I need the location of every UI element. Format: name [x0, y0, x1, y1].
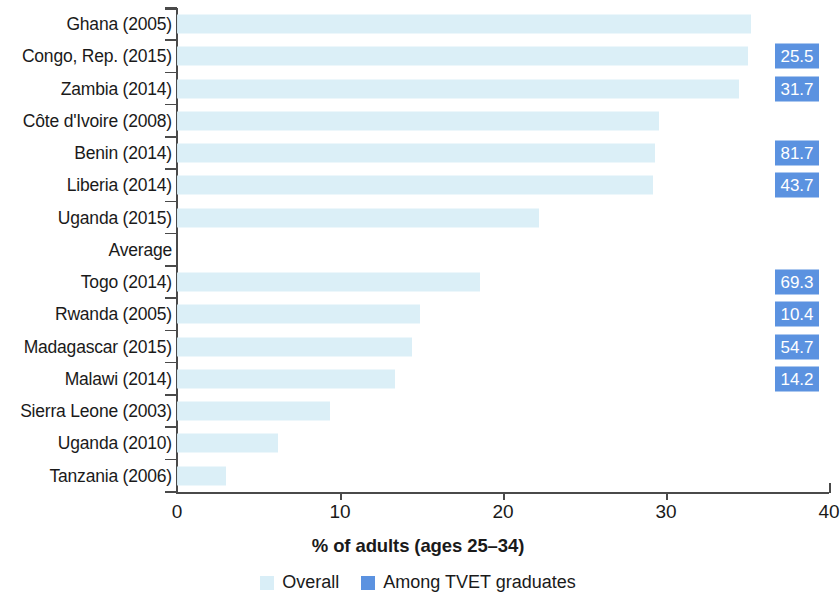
category-label: Ghana (2005)	[66, 14, 172, 35]
chart-row: Zambia (2014)31.7	[0, 73, 836, 105]
bar-overall	[177, 273, 480, 292]
bar-overall	[177, 466, 226, 485]
y-axis-tick	[165, 362, 177, 364]
chart-row: Togo (2014)69.3	[0, 266, 836, 298]
tvet-value-badge: 69.3	[775, 270, 819, 295]
tvet-value-badge: 31.7	[775, 76, 819, 101]
category-label: Congo, Rep. (2015)	[22, 46, 172, 67]
bar-overall	[177, 337, 412, 356]
category-label: Average	[109, 239, 172, 260]
category-label: Togo (2014)	[81, 272, 172, 293]
y-axis-tick	[165, 297, 177, 299]
y-axis-tick	[165, 265, 177, 267]
x-axis-tick-label: 20	[492, 501, 513, 523]
y-axis-tick	[165, 136, 177, 138]
y-axis-tick	[165, 233, 177, 235]
y-axis-tick	[165, 168, 177, 170]
category-label: Rwanda (2005)	[55, 304, 172, 325]
bar-overall	[177, 144, 655, 163]
x-axis-tick-label: 0	[172, 501, 183, 523]
tvet-value-badge: 43.7	[775, 173, 819, 198]
chart-rows: Ghana (2005)Congo, Rep. (2015)25.5Zambia…	[0, 8, 836, 492]
chart-legend: Overall Among TVET graduates	[0, 572, 836, 593]
chart-row: Uganda (2015)	[0, 202, 836, 234]
chart-row: Congo, Rep. (2015)25.5	[0, 40, 836, 72]
chart-row: Sierra Leone (2003)	[0, 395, 836, 427]
category-label: Tanzania (2006)	[50, 465, 173, 486]
y-axis-tick	[165, 39, 177, 41]
y-axis-tick	[165, 426, 177, 428]
chart-row: Liberia (2014)43.7	[0, 169, 836, 201]
tvet-value-badge: 10.4	[775, 302, 819, 327]
legend-item-overall: Overall	[260, 572, 339, 593]
plot-area: Ghana (2005)Congo, Rep. (2015)25.5Zambia…	[0, 0, 836, 500]
tvet-value-badge: 54.7	[775, 334, 819, 359]
tvet-value-badge: 14.2	[775, 366, 819, 391]
x-axis-tick	[340, 492, 342, 500]
chart-row: Madagascar (2015)54.7	[0, 331, 836, 363]
legend-item-tvet: Among TVET graduates	[361, 572, 575, 593]
bar-overall	[177, 79, 739, 98]
x-axis-endcap	[829, 483, 831, 493]
category-label: Benin (2014)	[74, 143, 172, 164]
x-axis-tick	[503, 492, 505, 500]
bar-overall	[177, 15, 751, 34]
category-label: Uganda (2015)	[58, 207, 172, 228]
category-label: Côte d'Ivoire (2008)	[23, 110, 172, 131]
chart-row: Rwanda (2005)10.4	[0, 298, 836, 330]
y-axis-tick	[165, 104, 177, 106]
bar-overall	[177, 176, 653, 195]
x-axis-tick-label: 10	[329, 501, 350, 523]
category-label: Sierra Leone (2003)	[20, 401, 172, 422]
category-label: Liberia (2014)	[67, 175, 172, 196]
chart-row: Tanzania (2006)	[0, 460, 836, 492]
y-axis-tick	[165, 330, 177, 332]
bar-overall	[177, 369, 395, 388]
bar-overall	[177, 402, 330, 421]
y-axis-tick	[165, 72, 177, 74]
bar-overall	[177, 208, 539, 227]
legend-label-tvet: Among TVET graduates	[383, 572, 575, 593]
chart-row: Average	[0, 234, 836, 266]
x-axis-title: % of adults (ages 25–34)	[0, 535, 836, 557]
bar-overall	[177, 305, 420, 324]
chart-row: Malawi (2014)14.2	[0, 363, 836, 395]
bar-overall	[177, 111, 659, 130]
bar-overall	[177, 434, 278, 453]
category-label: Uganda (2010)	[58, 433, 172, 454]
category-label: Zambia (2014)	[61, 78, 172, 99]
y-axis-tick	[165, 394, 177, 396]
y-axis-tick	[165, 201, 177, 203]
x-axis-tick-label: 30	[655, 501, 676, 523]
chart-row: Ghana (2005)	[0, 8, 836, 40]
x-axis-tick	[666, 492, 668, 500]
tvet-value-badge: 25.5	[775, 44, 819, 69]
chart-row: Uganda (2010)	[0, 427, 836, 459]
y-axis-tick	[165, 7, 177, 9]
y-axis-tick	[165, 459, 177, 461]
legend-swatch-tvet-icon	[361, 576, 375, 590]
x-axis-tick-label: 40	[818, 501, 839, 523]
tvet-value-badge: 81.7	[775, 141, 819, 166]
bar-overall	[177, 47, 748, 66]
chart-row: Côte d'Ivoire (2008)	[0, 105, 836, 137]
category-label: Malawi (2014)	[65, 368, 172, 389]
legend-label-overall: Overall	[282, 572, 339, 593]
legend-swatch-overall-icon	[260, 576, 274, 590]
chart-row: Benin (2014)81.7	[0, 137, 836, 169]
category-label: Madagascar (2015)	[24, 336, 172, 357]
